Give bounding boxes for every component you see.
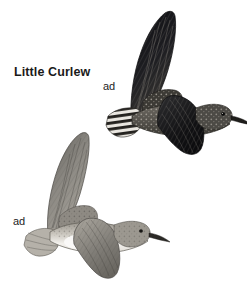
age-label-lower: ad xyxy=(13,215,25,227)
page-title: Little Curlew xyxy=(14,65,90,79)
bird-illustration-lower xyxy=(18,130,168,290)
field-guide-plate: Little Curlew xyxy=(0,0,247,306)
age-label-upper: ad xyxy=(103,80,115,92)
